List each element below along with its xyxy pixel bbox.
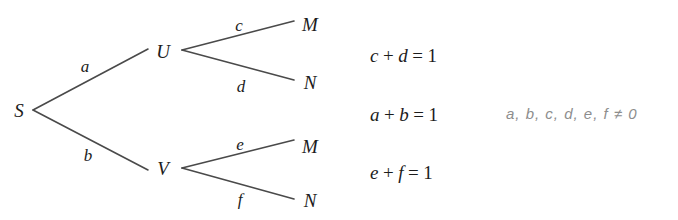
equation-ab: a+b=1: [370, 105, 438, 124]
equation-cd-plus-operator: +: [379, 45, 398, 66]
edge-label-d: d: [234, 78, 248, 95]
probability-tree-figure: S U V M N M N a b c d e f c+d=1 a+b=1 e+…: [0, 0, 678, 220]
node-label-lower-leaf-n: N: [300, 191, 320, 210]
equation-ab-left-term: a: [370, 104, 380, 125]
equation-ef-plus-operator: +: [379, 162, 398, 183]
equation-ef: e+f=1: [370, 163, 433, 182]
node-label-lower-mid: V: [154, 159, 172, 178]
edge-label-b: b: [81, 147, 95, 164]
equation-ef-value: 1: [423, 162, 433, 183]
node-label-upper-leaf-n: N: [300, 73, 320, 92]
equation-cd-equals-operator: =: [408, 45, 427, 66]
node-label-root: S: [10, 101, 28, 120]
equation-ef-equals-operator: =: [404, 162, 423, 183]
equation-ef-left-term: e: [370, 162, 379, 183]
equation-cd-left-term: c: [370, 45, 379, 66]
node-label-upper-leaf-m: M: [300, 15, 320, 34]
edge-label-e: e: [233, 136, 247, 153]
equation-cd-value: 1: [427, 45, 437, 66]
equation-ab-plus-operator: +: [380, 104, 399, 125]
edge-label-f: f: [233, 191, 247, 208]
edge-label-c: c: [232, 17, 246, 34]
edge-label-a: a: [78, 58, 92, 75]
equation-ab-value: 1: [428, 104, 438, 125]
node-label-upper-mid: U: [154, 42, 172, 61]
branch-line-u-n: [182, 50, 294, 80]
equation-ab-right-term: b: [399, 104, 409, 125]
equation-ab-equals-operator: =: [409, 104, 428, 125]
node-label-lower-leaf-m: M: [300, 137, 320, 156]
tree-branch-lines: [0, 0, 340, 220]
equation-cd: c+d=1: [370, 46, 437, 65]
equation-cd-right-term: d: [398, 45, 408, 66]
constraint-nonzero-note: a, b, c, d, e, f ≠ 0: [506, 106, 638, 121]
